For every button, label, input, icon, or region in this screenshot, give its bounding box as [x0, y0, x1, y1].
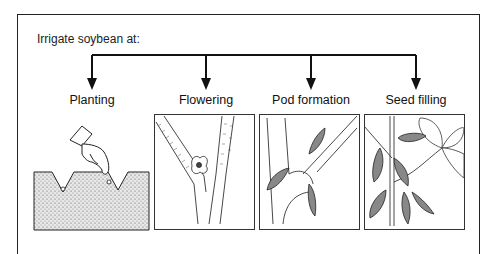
- pod-formation-illustration: [259, 114, 360, 230]
- arrow-head-seed-filling: [411, 78, 421, 90]
- arrow-head-flowering: [201, 78, 211, 90]
- seed-icon: [107, 180, 111, 184]
- hand-icon: [70, 126, 109, 174]
- arrow-head-pod-formation: [306, 78, 316, 90]
- flowering-illustration: [154, 114, 255, 230]
- flower-icon: [192, 156, 208, 173]
- arrow-head-planting: [87, 78, 97, 90]
- seed-filling-illustration: [364, 114, 465, 230]
- soil-furrow-icon: [34, 172, 149, 230]
- stage-label-pod-formation: Pod formation: [272, 93, 350, 107]
- stage-label-flowering: Flowering: [179, 93, 233, 107]
- planting-illustration: [30, 110, 152, 232]
- stage-label-planting: Planting: [69, 93, 114, 107]
- stage-label-seed-filling: Seed filling: [385, 93, 446, 107]
